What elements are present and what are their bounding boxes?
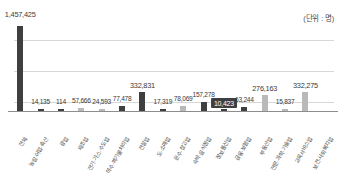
bar [262,95,268,111]
value-label: 57,666 [72,97,91,104]
category-label: 건설업 [144,124,158,140]
category-label: 광업 [63,128,75,140]
bar [201,102,207,111]
value-label: 77,478 [113,95,132,102]
value-label: 24,593 [92,98,111,105]
category-label: 도·소매업 [165,118,182,140]
value-label: 63,244 [235,96,254,103]
value-label: 114 [56,98,66,105]
category-label: 제조업 [83,124,97,140]
unit-note: (단위 : 명) [303,12,334,23]
gridline [14,71,334,72]
bar [38,109,44,111]
bar-chart: (단위 : 명) 1,457,42514,13511457,66624,5937… [0,0,342,196]
value-label: 1,457,425 [5,10,36,19]
bar [160,109,166,111]
value-label: 332,831 [130,81,155,90]
category-labels: 전체농림·어업·축산광업제조업전기·가스·수도업하수·폐기물처리업건설업도·소매… [0,136,342,196]
gridline [14,40,334,41]
category-label: 금융·보험업 [246,114,266,140]
bar [241,107,247,111]
value-label: 15,837 [276,98,295,105]
value-label: 276,163 [252,84,277,93]
bar [282,109,288,111]
bar [17,26,23,111]
bar [180,106,186,111]
category-label: 교육서비스업 [307,111,328,140]
value-label: 157,278 [193,91,215,98]
value-label: 78,069 [174,95,193,102]
category-label: 숙박·음식점업 [206,110,228,140]
value-label: 14,135 [31,98,50,105]
category-label: 운수·창고업 [185,114,205,140]
value-label-highlight: 10,423 [211,98,237,108]
value-label: 17,319 [153,98,172,105]
category-label: 전체 [22,128,34,140]
category-label: 정보통신업 [226,115,245,140]
category-label: 부동산업 [267,119,284,140]
value-label: 332,275 [293,81,318,90]
bar [78,108,84,111]
bar [99,109,105,111]
